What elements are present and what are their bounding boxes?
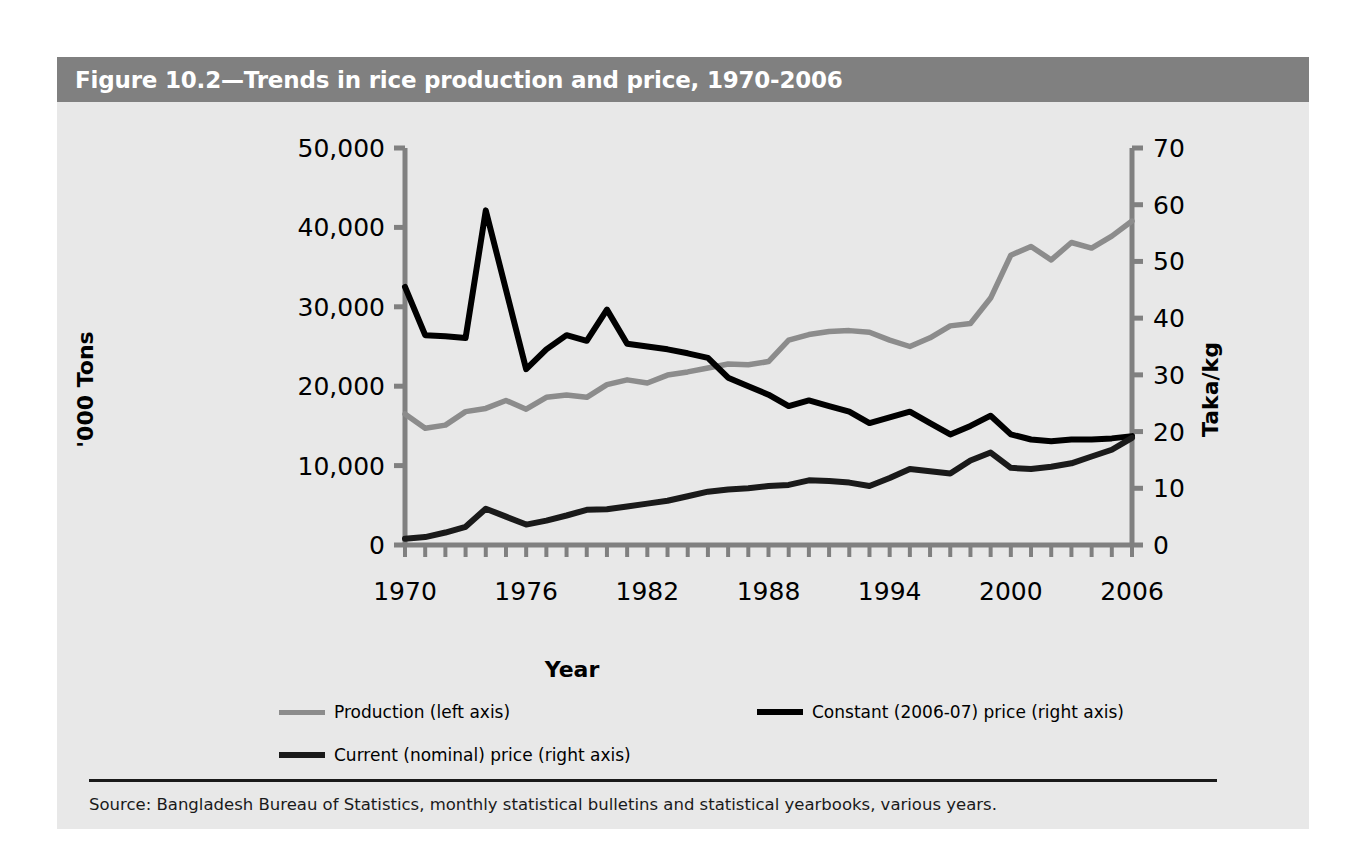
legend-label-nominal-price: Current (nominal) price (right axis) [334,745,631,765]
svg-text:40,000: 40,000 [298,213,385,242]
svg-text:0: 0 [1153,531,1169,560]
svg-text:2000: 2000 [979,577,1043,606]
svg-text:1994: 1994 [858,577,922,606]
svg-text:20: 20 [1153,418,1185,447]
svg-text:10: 10 [1153,474,1185,503]
y-axis-left-title: '000 Tons [73,300,98,480]
svg-text:40: 40 [1153,304,1185,333]
svg-text:0: 0 [369,531,385,560]
svg-text:70: 70 [1153,134,1185,163]
svg-text:1976: 1976 [494,577,558,606]
svg-text:20,000: 20,000 [298,372,385,401]
legend-item-constant-price: Constant (2006-07) price (right axis) [757,702,1124,722]
figure-container: Figure 10.2—Trends in rice production an… [57,57,1309,829]
source-divider [89,779,1217,782]
legend-label-constant-price: Constant (2006-07) price (right axis) [812,702,1124,722]
svg-text:30,000: 30,000 [298,293,385,322]
page-canvas: Figure 10.2—Trends in rice production an… [0,0,1362,857]
svg-text:2006: 2006 [1100,577,1164,606]
chart-area: 010,00020,00030,00040,00050,000010203040… [57,102,1309,829]
svg-text:60: 60 [1153,191,1185,220]
svg-text:50: 50 [1153,247,1185,276]
svg-text:1970: 1970 [373,577,437,606]
y-axis-right-title: Taka/kg [1198,300,1223,480]
svg-text:30: 30 [1153,361,1185,390]
svg-text:1988: 1988 [737,577,801,606]
figure-title: Figure 10.2—Trends in rice production an… [57,67,843,93]
figure-title-bar: Figure 10.2—Trends in rice production an… [57,57,1309,102]
legend-label-production: Production (left axis) [334,702,510,722]
svg-text:1982: 1982 [616,577,680,606]
legend-item-nominal-price: Current (nominal) price (right axis) [279,745,631,765]
legend-swatch-nominal-price [279,752,325,758]
x-axis-title: Year [57,657,1087,682]
svg-text:50,000: 50,000 [298,134,385,163]
legend-item-production: Production (left axis) [279,702,510,722]
source-note: Source: Bangladesh Bureau of Statistics,… [89,795,997,814]
line-chart: 010,00020,00030,00040,00050,000010203040… [57,102,1309,662]
legend-swatch-production [279,710,325,715]
svg-text:10,000: 10,000 [298,452,385,481]
legend-swatch-constant-price [757,709,803,715]
